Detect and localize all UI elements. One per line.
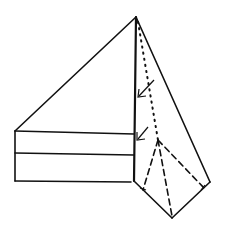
center-vertical-edge [134, 17, 136, 181]
origami-diagram [0, 0, 227, 230]
triangle-hypotenuse [15, 17, 136, 131]
fold-arrow-icon [138, 80, 154, 97]
kite-flap [134, 17, 210, 218]
fold-arrow-icon [137, 127, 148, 140]
crease-end-ticks [140, 185, 205, 190]
layered-rectangle [15, 131, 134, 182]
dotted-fold-line [138, 22, 158, 140]
dashed-creases [143, 140, 204, 216]
